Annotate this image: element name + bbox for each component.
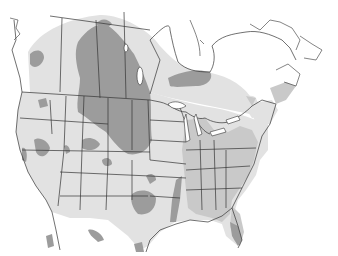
range-map	[0, 0, 338, 256]
north-america-map-svg	[0, 0, 338, 256]
